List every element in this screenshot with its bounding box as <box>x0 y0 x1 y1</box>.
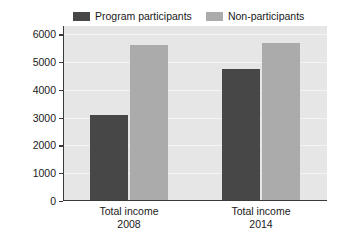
x-tick-label: Total income2008 <box>100 205 159 231</box>
plot-area: 0100020003000400050006000 <box>63 26 327 201</box>
x-tick-label-line1: Total income <box>100 205 159 217</box>
y-tick-mark <box>59 118 63 119</box>
y-tick-label: 5000 <box>33 57 56 68</box>
x-tick-label-line2: 2008 <box>100 218 159 231</box>
gridline <box>63 34 327 35</box>
y-tick-mark <box>59 34 63 35</box>
y-tick-label: 2000 <box>33 140 56 151</box>
legend-swatch-program-participants <box>73 12 90 21</box>
y-tick-label: 3000 <box>33 112 56 123</box>
legend-entry-non-participants: Non-participants <box>206 11 304 22</box>
bar <box>262 43 300 201</box>
y-tick-label: 1000 <box>33 168 56 179</box>
chart-legend: Program participants Non-participants <box>63 6 327 26</box>
y-tick-mark <box>59 145 63 146</box>
legend-swatch-non-participants <box>206 12 223 21</box>
legend-entry-program-participants: Program participants <box>73 11 192 22</box>
bar <box>222 69 260 201</box>
y-tick-label: 0 <box>50 196 56 207</box>
y-tick-mark <box>59 90 63 91</box>
bar-chart-figure: Program participants Non-participants 01… <box>0 0 342 240</box>
x-tick-label: Total income2014 <box>232 205 291 231</box>
y-tick-label: 4000 <box>33 85 56 96</box>
y-tick-label: 6000 <box>33 29 56 40</box>
legend-label-program-participants: Program participants <box>95 11 192 22</box>
y-tick-mark <box>59 173 63 174</box>
bar <box>130 45 168 201</box>
y-tick-mark <box>59 62 63 63</box>
y-tick-mark <box>59 201 63 202</box>
legend-label-non-participants: Non-participants <box>228 11 304 22</box>
x-tick-label-line1: Total income <box>232 205 291 217</box>
x-tick-label-line2: 2014 <box>232 218 291 231</box>
bar <box>90 115 128 201</box>
